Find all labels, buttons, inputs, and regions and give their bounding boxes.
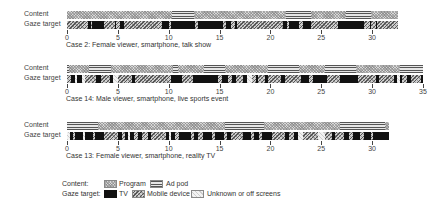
tv-segment (179, 132, 191, 140)
mobile-segment (377, 21, 397, 29)
mobile-segment (182, 75, 193, 83)
case-caption: Case 13: Female viewer, smartphone, real… (66, 152, 215, 159)
x-tick-label: 20 (266, 34, 274, 41)
program-segment (225, 65, 269, 73)
program-segment (299, 65, 325, 73)
mobile-segment (411, 75, 421, 83)
mobile-segment (272, 132, 284, 140)
mobile-segment (268, 75, 280, 83)
case-caption: Case 2: Female viewer, smartphone, talk … (66, 41, 211, 48)
program-swatch-icon (104, 180, 117, 188)
case-14-panel: Content Gaze target 05101520253035 Case … (0, 62, 447, 114)
gaze-row-label: Gaze target (24, 131, 61, 138)
program-segment (356, 65, 400, 73)
mobile-segment (118, 75, 132, 83)
x-tick-label: 0 (65, 145, 69, 152)
legend-gaze-label: Gaze target: (62, 190, 101, 197)
mobile-segment (237, 21, 283, 29)
tv-segment (364, 132, 371, 140)
mobile-segment (358, 75, 376, 83)
tv-segment (203, 132, 212, 140)
content-bar (67, 122, 389, 130)
x-tick-label: 15 (216, 88, 224, 95)
tv-segment (353, 132, 360, 140)
program-segment (98, 122, 225, 130)
mobile-segment (135, 75, 171, 83)
tv-segment (193, 75, 217, 83)
tv-segment (303, 21, 311, 29)
x-tick-label: 25 (317, 34, 325, 41)
tv-segment (75, 132, 83, 140)
case-caption: Case 14: Male viewer, smartphone, live s… (66, 95, 228, 102)
x-tick-label: 0 (65, 88, 69, 95)
mobile-segment (285, 75, 301, 83)
content-row-label: Content (24, 64, 49, 71)
ad-segment (286, 11, 311, 19)
ad-segment (225, 122, 265, 130)
x-tick-label: 30 (368, 88, 376, 95)
tv-segment (313, 75, 327, 83)
x-tick-label: 20 (266, 88, 274, 95)
tv-segment (338, 21, 364, 29)
legend-content-label: Content: (62, 180, 88, 187)
mobile-segment (104, 132, 118, 140)
mobile-segment (379, 75, 394, 83)
legend-unknown-label: Unknown or off screens (207, 190, 280, 197)
x-tick-label: 10 (165, 145, 173, 152)
ad-segment (268, 65, 299, 73)
mobile-segment (101, 75, 110, 83)
tv-segment (198, 21, 222, 29)
x-tick-label: 15 (216, 34, 224, 41)
content-bar (67, 11, 398, 19)
tv-segment (85, 132, 93, 140)
program-segment (385, 122, 389, 130)
gaze-target-bar (67, 21, 398, 29)
mobile-segment (325, 132, 332, 140)
program-segment (311, 11, 346, 19)
mobile-segment (231, 132, 243, 140)
mobile-segment (335, 132, 343, 140)
mobile-swatch-icon (132, 190, 145, 198)
tv-segment (373, 132, 389, 140)
case-2-panel: Content Gaze target 051015202530 Case 2:… (0, 8, 447, 60)
legend-program-label: Program (119, 180, 146, 187)
tv-segment (421, 75, 423, 83)
program-segment (194, 11, 286, 19)
ad-segment (325, 65, 356, 73)
gaze-target-bar (67, 132, 389, 140)
x-tick-label: 5 (116, 145, 120, 152)
tv-segment (92, 21, 103, 29)
ad-pod-swatch-icon (150, 180, 163, 188)
x-tick-label: 20 (266, 145, 274, 152)
program-segment (178, 65, 204, 73)
x-tick-label: 10 (165, 88, 173, 95)
mobile-segment (124, 21, 162, 29)
x-tick-label: 10 (165, 34, 173, 41)
tv-swatch-icon (104, 190, 117, 198)
gaze-row-label: Gaze target (24, 74, 61, 81)
legend-ad-label: Ad pod (166, 180, 188, 187)
tv-segment (215, 132, 223, 140)
mobile-segment (327, 75, 339, 83)
program-segment (264, 122, 339, 130)
tv-segment (162, 21, 169, 29)
x-tick-label: 5 (116, 88, 120, 95)
ad-segment (346, 11, 371, 19)
content-row-label: Content (24, 10, 49, 17)
tv-segment (243, 132, 251, 140)
tv-segment (171, 75, 182, 83)
tv-segment (289, 21, 299, 29)
x-tick-label: 0 (65, 34, 69, 41)
program-segment (371, 11, 397, 19)
ad-segment (89, 65, 110, 73)
mobile-segment (236, 75, 243, 83)
x-tick-label: 30 (368, 34, 376, 41)
x-tick-label: 35 (419, 88, 427, 95)
tv-segment (340, 75, 358, 83)
tv-segment (262, 132, 272, 140)
content-bar (67, 65, 423, 73)
ad-segment (340, 122, 386, 130)
mobile-segment (104, 21, 115, 29)
x-tick-label: 30 (368, 145, 376, 152)
x-tick-label: 5 (116, 34, 120, 41)
